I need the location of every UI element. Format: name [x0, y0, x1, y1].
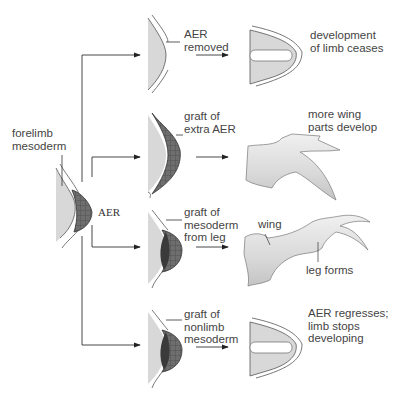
manipulation-label-aer-removed: AER removed: [184, 28, 229, 53]
bud-extra-aer: [148, 113, 183, 198]
manipulation-label-leg-mesoderm: graft of mesoderm from leg: [184, 206, 238, 244]
extra-wing-parts: [246, 134, 340, 200]
leg-forms-label: leg forms: [306, 264, 353, 277]
limb-truncated-row1: [250, 26, 302, 86]
connector-arrows: [82, 55, 140, 345]
limb-truncated-row4: [250, 318, 302, 378]
result-label-aer-removed: development of limb ceases: [310, 29, 384, 54]
wing-label: wing: [258, 218, 282, 231]
bud-leg-mesoderm: [148, 210, 182, 288]
manipulation-label-extra-aer: graft of extra AER: [184, 110, 236, 135]
diagram-canvas: forelimb mesoderm AER AER removed develo…: [0, 0, 406, 411]
bud-aer-removed: [148, 15, 180, 93]
result-label-nonlimb-mesoderm: AER regresses; limb stops developing: [308, 307, 389, 345]
forelimb-bud: [56, 155, 92, 248]
bud-nonlimb-mesoderm: [148, 310, 182, 388]
result-label-extra-aer: more wing parts develop: [308, 108, 377, 133]
aer-label: AER: [98, 206, 120, 219]
manipulation-label-nonlimb-mesoderm: graft of nonlimb mesoderm: [184, 308, 238, 346]
forelimb-mesoderm-label: forelimb mesoderm: [12, 127, 66, 152]
